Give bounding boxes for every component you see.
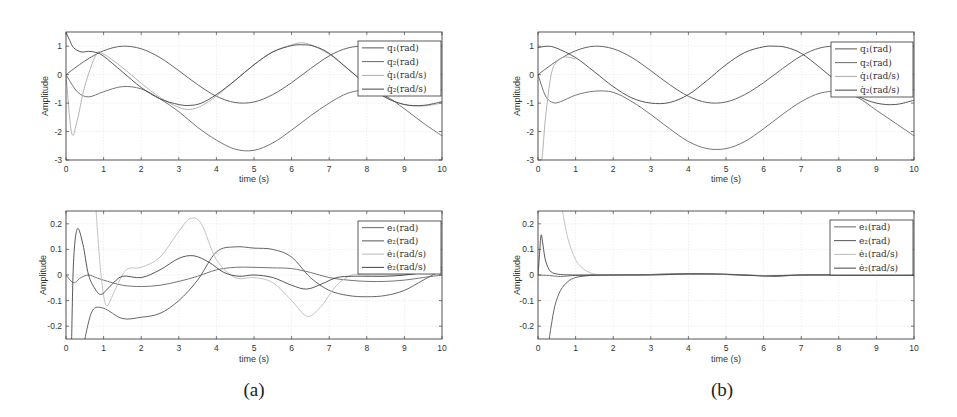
plot-a-joint-positions-velocities: 012345678910-3-2-101time (s)Amplitudeq₁(…: [40, 32, 447, 184]
x-tick-label: 7: [799, 343, 804, 353]
x-tick-label: 10: [909, 164, 919, 174]
y-tick-label: 0: [57, 70, 62, 80]
legend-entry-label: e₁(rad): [859, 222, 890, 232]
plot-b-tracking-errors: 012345678910-0.2-0.100.10.2time (s)Ampli…: [512, 211, 919, 364]
x-tick-label: 2: [139, 164, 144, 174]
y-tick-label: -0.1: [47, 296, 62, 306]
x-tick-label: 4: [686, 343, 691, 353]
x-tick-label: 3: [648, 164, 653, 174]
legend: e₁(rad)e₂(rad)ė₁(rad/s)ė₂(rad/s): [830, 220, 913, 275]
y-axis-label: Amplitude: [512, 76, 522, 116]
x-tick-label: 6: [289, 164, 294, 174]
x-tick-label: 2: [139, 343, 144, 353]
y-tick-label: 0: [529, 70, 534, 80]
x-axis-label: time (s): [711, 354, 741, 364]
x-tick-label: 4: [686, 164, 691, 174]
x-tick-label: 5: [724, 164, 729, 174]
x-tick-label: 5: [252, 164, 257, 174]
x-tick-label: 4: [214, 164, 219, 174]
x-tick-label: 6: [289, 343, 294, 353]
legend-entry-label: q₁(rad): [860, 44, 892, 54]
legend-entry-label: q̇₁(rad/s): [387, 70, 426, 80]
legend-entry-label: ė₁(rad/s): [387, 249, 426, 259]
legend-entry-label: q̇₁(rad/s): [860, 71, 899, 81]
x-axis-label: time (s): [239, 354, 269, 364]
legend-entry-label: q₁(rad): [387, 43, 419, 53]
caption-a: (a): [243, 379, 264, 401]
legend-entry-label: q̇₂(rad/s): [860, 85, 899, 95]
x-tick-label: 2: [611, 164, 616, 174]
x-tick-label: 8: [364, 343, 369, 353]
x-tick-label: 8: [836, 343, 841, 353]
legend-entry-label: q₂(rad): [860, 58, 892, 68]
x-tick-label: 6: [761, 164, 766, 174]
y-axis-label: Amplitude: [38, 255, 48, 295]
x-tick-label: 8: [364, 164, 369, 174]
x-tick-label: 7: [799, 164, 804, 174]
legend-entry-label: e₁(rad): [387, 223, 418, 233]
x-tick-label: 0: [64, 343, 69, 353]
plot-b-joint-positions-velocities: 012345678910-3-2-101time (s)Amplitudeq₁(…: [512, 32, 919, 184]
legend-entry-label: e₂(rad): [387, 236, 418, 246]
figure-canvas: 012345678910-3-2-101time (s)Amplitudeq₁(…: [0, 0, 957, 417]
legend-entry-label: ė₁(rad/s): [859, 249, 898, 259]
legend-entry-label: q̇₂(rad/s): [387, 84, 426, 94]
y-tick-label: 0.1: [522, 244, 534, 254]
x-tick-label: 0: [64, 164, 69, 174]
x-tick-label: 1: [101, 164, 106, 174]
legend: q₁(rad)q₂(rad)q̇₁(rad/s)q̇₂(rad/s): [358, 41, 441, 96]
y-tick-label: -3: [54, 155, 62, 165]
y-tick-label: 0.2: [522, 219, 534, 229]
legend-entry-label: ė₂(rad/s): [387, 262, 426, 272]
x-tick-label: 0: [536, 343, 541, 353]
x-tick-label: 0: [536, 164, 541, 174]
x-tick-label: 6: [761, 343, 766, 353]
x-tick-label: 10: [437, 343, 447, 353]
x-axis-label: time (s): [711, 174, 741, 184]
y-tick-label: -2: [54, 127, 62, 137]
y-tick-label: -0.2: [47, 321, 62, 331]
x-tick-label: 2: [611, 343, 616, 353]
legend-entry-label: q₂(rad): [387, 57, 419, 67]
x-tick-label: 7: [327, 164, 332, 174]
y-axis-label: Amplitude: [40, 76, 50, 116]
y-tick-label: 1: [529, 41, 534, 51]
y-tick-label: -3: [526, 155, 534, 165]
x-tick-label: 1: [573, 343, 578, 353]
x-tick-label: 9: [402, 343, 407, 353]
y-tick-label: 0: [57, 270, 62, 280]
x-tick-label: 5: [724, 343, 729, 353]
y-tick-label: -0.1: [519, 296, 534, 306]
legend-entry-label: ė₂(rad/s): [859, 263, 898, 273]
plot-a-tracking-errors: 012345678910-0.2-0.100.10.2time (s)Ampli…: [38, 211, 447, 364]
y-tick-label: -1: [54, 98, 62, 108]
x-tick-label: 1: [101, 343, 106, 353]
x-tick-label: 9: [874, 164, 879, 174]
y-tick-label: 1: [57, 41, 62, 51]
x-axis-label: time (s): [239, 174, 269, 184]
x-tick-label: 3: [176, 343, 181, 353]
y-tick-label: -1: [526, 98, 534, 108]
legend-entry-label: e₂(rad): [859, 236, 890, 246]
x-tick-label: 1: [573, 164, 578, 174]
y-tick-label: 0.1: [50, 244, 62, 254]
x-tick-label: 9: [874, 343, 879, 353]
x-tick-label: 10: [437, 164, 447, 174]
x-tick-label: 10: [909, 343, 919, 353]
y-tick-label: -2: [526, 127, 534, 137]
y-tick-label: 0.2: [50, 219, 62, 229]
x-tick-label: 4: [214, 343, 219, 353]
x-tick-label: 7: [327, 343, 332, 353]
y-tick-label: -0.2: [519, 321, 534, 331]
y-tick-label: 0: [529, 270, 534, 280]
legend: e₁(rad)e₂(rad)ė₁(rad/s)ė₂(rad/s): [358, 221, 441, 274]
y-axis-label: Amplitude: [512, 255, 522, 295]
x-tick-label: 5: [252, 343, 257, 353]
x-tick-label: 3: [648, 343, 653, 353]
caption-b: (b): [711, 379, 733, 401]
legend: q₁(rad)q₂(rad)q̇₁(rad/s)q̇₂(rad/s): [831, 42, 913, 97]
x-tick-label: 3: [176, 164, 181, 174]
x-tick-label: 8: [836, 164, 841, 174]
x-tick-label: 9: [402, 164, 407, 174]
